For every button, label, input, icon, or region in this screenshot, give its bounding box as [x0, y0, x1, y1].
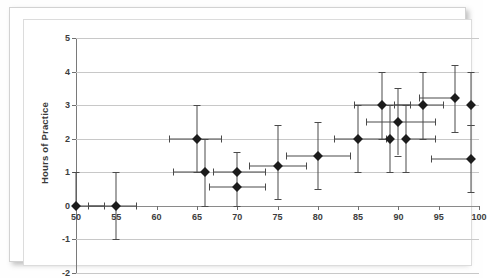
error-bar-cap-upper [201, 139, 208, 140]
x-tick-label-80: 80 [313, 212, 323, 222]
x-tick-mark-85 [358, 206, 359, 210]
error-bar-cap-lower [113, 239, 120, 240]
error-bar-cap-upper [73, 172, 80, 173]
error-bar-cap-lower [234, 206, 241, 207]
error-bar-cap-left [419, 95, 420, 102]
data-point [200, 167, 210, 177]
data-point [111, 201, 121, 211]
error-bar-cap-left [286, 152, 287, 159]
error-bar-cap-upper [419, 72, 426, 73]
error-bar-cap-lower [274, 199, 281, 200]
chart-outer-frame: Hours of Practice -2-1012345505560657075… [9, 7, 466, 262]
error-bar-cap-upper [314, 122, 321, 123]
x-tick-mark-95 [439, 206, 440, 210]
x-tick-mark-60 [157, 206, 158, 210]
error-bar-cap-upper [395, 88, 402, 89]
error-bar-cap-right [350, 152, 351, 159]
data-point [393, 117, 403, 127]
error-bar-cap-upper [234, 152, 241, 153]
x-tick-label-85: 85 [353, 212, 363, 222]
error-bar-cap-right [136, 202, 137, 209]
error-bar-cap-left [334, 135, 335, 142]
y-tick-label-5: 5 [65, 33, 70, 43]
error-bar-cap-upper [387, 105, 394, 106]
data-point [232, 167, 242, 177]
error-bar-cap-left [213, 169, 214, 176]
data-point [313, 151, 323, 161]
x-tick-label-75: 75 [272, 212, 282, 222]
y-tick-mark-3 [72, 105, 76, 106]
error-bar-cap-lower [387, 172, 394, 173]
error-bar-cap-right [265, 184, 266, 191]
y-tick-label-4: 4 [65, 67, 70, 77]
error-bar-vertical [237, 152, 238, 206]
y-tick-label--2: -2 [62, 268, 70, 278]
data-point [353, 134, 363, 144]
error-bar-cap-left [394, 102, 395, 109]
error-bar-cap-left [169, 135, 170, 142]
error-bar-cap-upper [193, 105, 200, 106]
y-tick-label--1: -1 [62, 234, 70, 244]
error-bar-cap-lower [314, 189, 321, 190]
y-tick-mark-5 [72, 38, 76, 39]
error-bar-cap-upper [451, 65, 458, 66]
x-tick-mark-75 [278, 206, 279, 210]
error-bar-cap-upper [379, 72, 386, 73]
data-point [71, 201, 81, 211]
data-point [273, 161, 283, 171]
y-tick-mark--2 [72, 273, 76, 274]
data-point [192, 134, 202, 144]
error-bar-cap-left [88, 202, 89, 209]
error-bar-cap-left [249, 162, 250, 169]
error-bar-cap-lower [395, 156, 402, 157]
x-tick-mark-100 [479, 206, 480, 210]
x-tick-label-65: 65 [192, 212, 202, 222]
error-bar-cap-right [443, 102, 444, 109]
x-tick-mark-80 [318, 206, 319, 210]
data-point [466, 154, 476, 164]
error-bar-cap-left [173, 169, 174, 176]
y-axis-line [76, 38, 77, 273]
data-point [377, 100, 387, 110]
plot-area: -2-101234550556065707580859095100 [76, 38, 479, 273]
gridline-y-5 [76, 38, 479, 39]
error-bar-cap-left [431, 155, 432, 162]
error-bar-cap-lower [403, 172, 410, 173]
x-tick-label-70: 70 [232, 212, 242, 222]
y-tick-mark-2 [72, 139, 76, 140]
x-tick-mark-90 [398, 206, 399, 210]
error-bar-cap-upper [113, 172, 120, 173]
error-bar-cap-right [435, 135, 436, 142]
chart-inner-frame: Hours of Practice -2-1012345505560657075… [23, 19, 472, 266]
x-tick-label-95: 95 [434, 212, 444, 222]
error-bar-cap-right [306, 162, 307, 169]
error-bar-cap-right [435, 118, 436, 125]
error-bar-cap-left [366, 118, 367, 125]
error-bar-cap-right [265, 169, 266, 176]
error-bar-cap-lower [467, 192, 474, 193]
y-tick-label-1: 1 [65, 167, 70, 177]
gridline-y--1 [76, 239, 479, 240]
x-tick-label-60: 60 [152, 212, 162, 222]
error-bar-cap-lower [451, 132, 458, 133]
x-tick-label-90: 90 [393, 212, 403, 222]
error-bar-cap-right [221, 135, 222, 142]
data-point [402, 134, 412, 144]
data-point [466, 100, 476, 110]
gridline-y--2 [76, 273, 479, 274]
x-tick-label-100: 100 [471, 212, 486, 222]
y-tick-mark--1 [72, 239, 76, 240]
error-bar-vertical [470, 72, 471, 126]
error-bar-cap-lower [201, 206, 208, 207]
y-tick-label-0: 0 [65, 201, 70, 211]
data-point [232, 182, 242, 192]
error-bar-cap-upper [467, 125, 474, 126]
y-tick-mark-4 [72, 72, 76, 73]
y-axis-title: Hours of Practice [39, 101, 50, 183]
error-bar-cap-lower [419, 139, 426, 140]
x-tick-mark-65 [197, 206, 198, 210]
error-bar-cap-left [354, 102, 355, 109]
error-bar-cap-upper [467, 72, 474, 73]
data-point [450, 93, 460, 103]
